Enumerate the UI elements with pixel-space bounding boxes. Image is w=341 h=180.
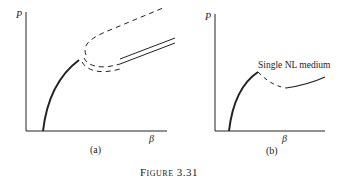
panel-b-x-axis-label: β (282, 134, 287, 144)
panel-b-label: (b) (266, 146, 278, 156)
a-upper-solid-branch (120, 38, 175, 59)
panel-a-x-axis-label: β (149, 134, 154, 144)
figure-caption: Figure 3.31 (140, 167, 198, 177)
panel-a-label: (a) (90, 145, 101, 155)
b-unstable-branch (258, 72, 286, 88)
a-inner-dashed-branch (84, 58, 120, 67)
b-stable-low-branch (229, 72, 258, 131)
panel-b-y-axis-label: P (205, 12, 211, 22)
a-stable-low-branch (43, 60, 79, 131)
a-lower-solid-branch (120, 43, 175, 64)
panel-b-annotation: Single NL medium (258, 60, 330, 70)
a-outer-dashed-branch (85, 8, 163, 55)
figure-canvas (0, 0, 341, 180)
panel-a-curves (43, 8, 175, 131)
panel-b-curves (229, 72, 325, 131)
b-high-branch (286, 77, 325, 88)
panel-a-y-axis-label: P (16, 10, 22, 20)
